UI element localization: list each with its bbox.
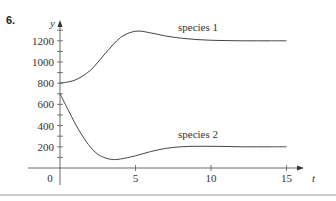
origin-label: 0 bbox=[47, 172, 53, 184]
y-tick-label: 1200 bbox=[32, 35, 55, 47]
series-label-species-1: species 1 bbox=[178, 21, 218, 33]
y-axis-label: y bbox=[49, 17, 55, 29]
y-tick-label: 400 bbox=[38, 120, 55, 132]
y-axis-arrow-icon bbox=[58, 20, 63, 27]
series-line-1 bbox=[60, 31, 287, 83]
y-tick-label: 600 bbox=[38, 98, 55, 110]
y-tick-label: 800 bbox=[38, 77, 55, 89]
y-tick-label: 200 bbox=[38, 141, 55, 153]
x-axis-label: t bbox=[312, 172, 316, 184]
series-label-species-2: species 2 bbox=[178, 128, 218, 140]
x-tick-label: 5 bbox=[133, 172, 139, 184]
x-tick-label: 10 bbox=[206, 172, 218, 184]
line-chart: 20040060080010001200510150tyspecies 1spe… bbox=[0, 0, 336, 201]
series-line-2 bbox=[60, 94, 287, 160]
x-axis-arrow-icon bbox=[297, 166, 304, 171]
y-tick-label: 1000 bbox=[32, 56, 55, 68]
x-tick-label: 15 bbox=[281, 172, 293, 184]
